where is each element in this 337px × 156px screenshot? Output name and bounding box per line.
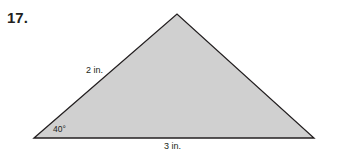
side-length-label: 2 in.	[86, 65, 103, 75]
triangle-shape	[34, 14, 314, 138]
angle-label: 40°	[53, 124, 66, 134]
base-length-label: 3 in.	[164, 141, 181, 151]
triangle-figure	[0, 0, 337, 156]
